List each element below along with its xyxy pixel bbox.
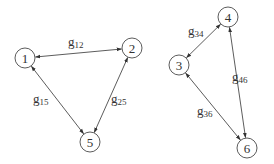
node-4: 4: [218, 7, 238, 27]
edge-label-g36: g36: [197, 103, 213, 119]
edge-g12: [36, 49, 122, 57]
edge-label-g46: g46: [232, 69, 248, 85]
edge-label-g12: g12: [68, 34, 84, 50]
node-label: 1: [22, 51, 29, 66]
node-2: 2: [122, 38, 142, 58]
node-1: 1: [15, 48, 35, 68]
node-label: 5: [87, 135, 94, 150]
node-6: 6: [237, 138, 257, 158]
node-label: 2: [129, 41, 136, 56]
node-3: 3: [169, 55, 189, 75]
edge-label-subscript: 15: [40, 97, 50, 107]
edge-label-subscript: 36: [204, 109, 214, 119]
network-graph-diagram: g12g15g25g34g46g36 125346: [0, 0, 274, 164]
edge-label-g15: g15: [33, 91, 49, 107]
nodes-layer: 125346: [15, 7, 257, 158]
edge-labels-layer: g12g15g25g34g46g36: [33, 23, 248, 119]
node-label: 3: [176, 58, 183, 73]
node-5: 5: [80, 132, 100, 152]
node-label: 6: [244, 141, 251, 156]
edge-label-subscript: 12: [75, 40, 84, 50]
edge-label-subscript: 34: [195, 29, 205, 39]
node-label: 4: [225, 10, 232, 25]
edge-label-subscript: 46: [239, 75, 249, 85]
edge-label-g25: g25: [111, 91, 127, 107]
edge-label-g34: g34: [188, 23, 204, 39]
edge-label-subscript: 25: [118, 97, 128, 107]
